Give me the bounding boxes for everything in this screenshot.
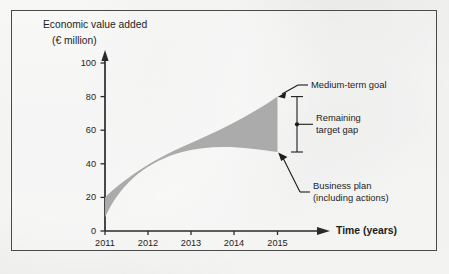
x-axis-title: Time (years) — [336, 225, 397, 236]
x-tick-label-2011: 2011 — [95, 238, 115, 248]
chart-figure: Economic value added (€ million) Time (y… — [0, 0, 449, 274]
y-tick-label-20: 20 — [86, 192, 96, 202]
annotation-business-plan-line1: Business plan — [313, 180, 371, 191]
medium-term-goal-arrowhead — [278, 92, 286, 98]
y-tick-label-80: 80 — [86, 92, 96, 102]
x-tick-label-2013: 2013 — [181, 238, 201, 248]
business-plan-arrowhead — [278, 153, 287, 161]
y-tick-label-60: 60 — [86, 125, 96, 135]
arrow-up-icon — [101, 50, 108, 61]
x-tick-label-2012: 2012 — [138, 238, 158, 248]
arrow-right-icon — [317, 227, 330, 235]
medium-term-goal-leader-diagonal — [282, 85, 298, 94]
annotation-remaining-target-gap-line1: Remaining — [316, 112, 361, 123]
y-tick-label-0: 0 — [91, 226, 96, 236]
x-tick-label-2015: 2015 — [267, 238, 287, 248]
y-tick-label-100: 100 — [81, 58, 96, 68]
business-plan-leader-diagonal — [283, 158, 300, 192]
x-tick-label-2014: 2014 — [224, 238, 244, 248]
annotation-business-plan-line2: (including actions) — [313, 192, 389, 203]
annotation-medium-term-goal: Medium-term goal — [311, 79, 387, 90]
y-tick-label-40: 40 — [86, 159, 96, 169]
y-axis-title-line1: Economic value added — [43, 19, 147, 30]
value-corridor-band — [105, 97, 278, 218]
y-axis-title-line2: (€ million) — [52, 35, 97, 46]
annotation-remaining-target-gap-line2: target gap — [316, 124, 358, 135]
